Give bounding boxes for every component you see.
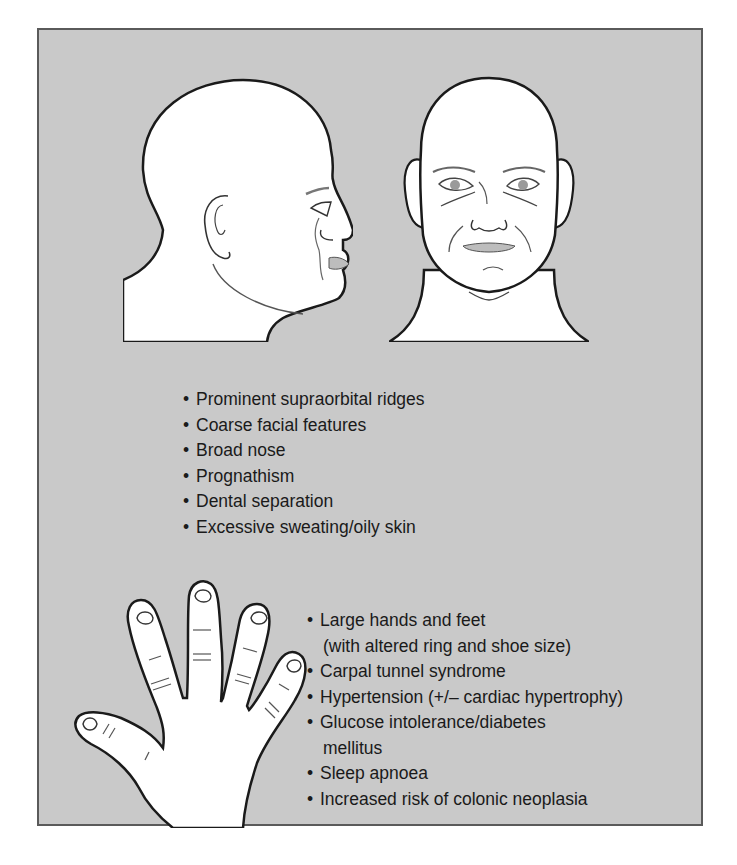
hand-illustration [53, 538, 313, 828]
head-frontal-illustration [389, 60, 589, 342]
hand-icon [53, 538, 313, 828]
systemic-features-list: Large hands and feet (with altered ring … [307, 608, 623, 812]
list-item: Prominent supraorbital ridges [183, 387, 425, 413]
list-item: Increased risk of colonic neoplasia [307, 787, 623, 813]
list-item: Coarse facial features [183, 413, 425, 439]
list-item: Sleep apnoea [307, 761, 623, 787]
list-item: Excessive sweating/oily skin [183, 515, 425, 541]
head-profile-icon [123, 60, 353, 342]
figure-panel: Prominent supraorbital ridges Coarse fac… [37, 28, 703, 826]
list-item: Glucose intolerance/diabetes mellitus [307, 710, 623, 761]
list-item: Dental separation [183, 489, 425, 515]
list-item: Broad nose [183, 438, 425, 464]
list-item: Large hands and feet (with altered ring … [307, 608, 623, 659]
head-profile-illustration [123, 60, 353, 342]
list-item: Carpal tunnel syndrome [307, 659, 623, 685]
list-item: Hypertension (+/– cardiac hypertrophy) [307, 685, 623, 711]
head-frontal-icon [389, 60, 589, 342]
facial-features-list: Prominent supraorbital ridges Coarse fac… [183, 387, 425, 540]
list-item: Prognathism [183, 464, 425, 490]
